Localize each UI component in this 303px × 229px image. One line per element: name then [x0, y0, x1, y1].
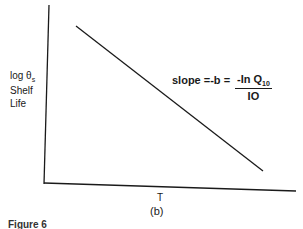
y-axis-label-life: Life [10, 98, 26, 109]
y-axis-label-log-theta: log θs [10, 70, 35, 85]
slope-fraction: -In Q10 IO [235, 73, 272, 102]
chart-canvas [0, 0, 303, 229]
y-axis [44, 5, 49, 184]
slope-annotation: slope =-b = [172, 74, 230, 86]
y-label-subscript: s [32, 76, 36, 83]
fraction-bar [235, 88, 272, 89]
figure-caption: Figure 6 [8, 219, 47, 229]
numerator-text: -In Q [237, 73, 262, 85]
numerator-subscript: 10 [262, 80, 270, 87]
fraction-numerator: -In Q10 [235, 73, 272, 87]
y-axis-label-shelf: Shelf [10, 85, 33, 96]
y-label-text: log θ [10, 70, 32, 81]
panel-label: (b) [150, 206, 163, 217]
x-axis-label: T [157, 192, 163, 203]
x-axis [44, 183, 296, 191]
fraction-denominator: IO [235, 90, 272, 102]
